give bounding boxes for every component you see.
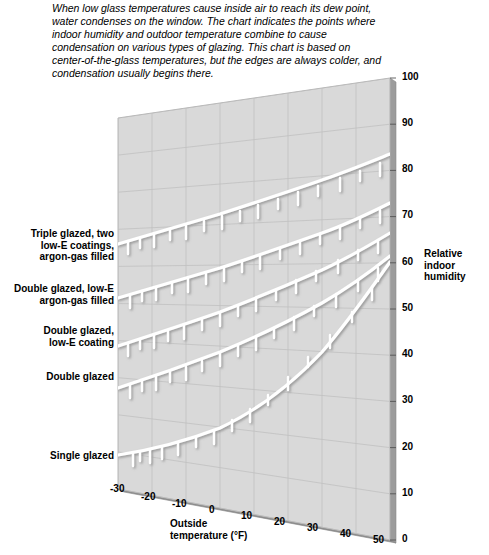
series-label-single-line1: Single glazed [0, 450, 114, 462]
humidity-tick-30: 30 [402, 394, 413, 405]
temp-tick-50: 50 [373, 534, 384, 545]
temp-tick-40: 40 [340, 528, 351, 539]
series-label-double-lowe: Double glazed, low-E coating [0, 325, 114, 348]
series-label-double-line1: Double glazed [0, 371, 114, 383]
humidity-tick-0: 0 [402, 533, 408, 544]
series-label-triple-line2: low-E coatings, [0, 240, 114, 252]
humidity-tick-70: 70 [402, 209, 413, 220]
series-label-triple-line3: argon-gas filled [0, 251, 114, 263]
series-label-double-lowe-line1: Double glazed, [0, 325, 114, 337]
humidity-tick-40: 40 [402, 348, 413, 359]
temp-tick-30: 30 [307, 522, 318, 533]
x-axis-title-line1: Outside [170, 518, 247, 530]
temp-tick-minus30: -30 [110, 483, 124, 494]
humidity-tick-10: 10 [402, 487, 413, 498]
x-axis-title-line2: temperature (°F) [170, 530, 247, 542]
temp-tick-20: 20 [274, 516, 285, 527]
y-axis-title-line3: humidity [424, 271, 466, 283]
temp-tick-0: 0 [209, 504, 215, 515]
series-label-single-glazed: Single glazed [0, 450, 114, 462]
panel-edge-right [390, 78, 396, 543]
humidity-tick-90: 90 [402, 117, 413, 128]
series-label-double-lowe-line2: low-E coating [0, 337, 114, 349]
chart-svg [0, 0, 489, 555]
x-axis-title: Outside temperature (°F) [170, 518, 247, 541]
series-label-double-lowe-argon: Double glazed, low-E argon-gas filled [0, 283, 114, 306]
series-label-double-glazed: Double glazed [0, 371, 114, 383]
series-label-double-lowe-argon-line1: Double glazed, low-E [0, 283, 114, 295]
humidity-tick-100: 100 [402, 71, 419, 82]
condensation-chart: 100 90 80 70 60 50 40 30 20 10 0 -30 -20… [0, 0, 489, 555]
temp-tick-minus20: -20 [141, 491, 155, 502]
humidity-tick-80: 80 [402, 163, 413, 174]
series-label-double-lowe-argon-line2: argon-gas filled [0, 295, 114, 307]
series-label-triple-line1: Triple glazed, two [0, 228, 114, 240]
humidity-tick-20: 20 [402, 441, 413, 452]
y-axis-title: Relative indoor humidity [424, 248, 466, 283]
humidity-tick-50: 50 [402, 302, 413, 313]
temp-tick-minus10: -10 [172, 498, 186, 509]
y-axis-title-line1: Relative [424, 248, 466, 260]
y-axis-title-line2: indoor [424, 260, 466, 272]
series-label-triple-glazed: Triple glazed, two low-E coatings, argon… [0, 228, 114, 263]
humidity-tick-60: 60 [402, 256, 413, 267]
